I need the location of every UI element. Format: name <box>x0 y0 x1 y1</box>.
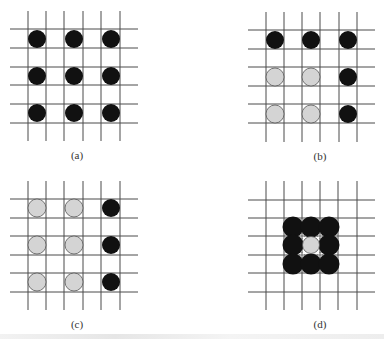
empty-site-dot <box>302 68 320 86</box>
occupied-site-dot <box>28 30 46 48</box>
occupied-site-dot <box>283 254 304 275</box>
occupied-site-dot <box>102 199 120 217</box>
empty-site-dot <box>65 199 83 217</box>
occupied-site-dot <box>65 104 83 122</box>
occupied-site-dot <box>301 254 322 275</box>
occupied-site-dot <box>319 254 340 275</box>
occupied-site-dot <box>102 236 120 254</box>
occupied-site-dot <box>283 235 304 256</box>
empty-site-dot <box>302 105 320 123</box>
empty-site-dot <box>28 236 46 254</box>
panel-b <box>248 12 375 142</box>
occupied-site-dot <box>302 31 320 49</box>
empty-site-dot <box>303 237 320 254</box>
empty-site-dot <box>28 199 46 217</box>
lattice-figure: (a) (b) (c) (d) <box>0 0 384 339</box>
occupied-site-dot <box>102 273 120 291</box>
cropped-caption-strip <box>0 334 384 339</box>
panel-c-label: (c) <box>71 318 84 331</box>
occupied-site-dot <box>339 105 357 123</box>
panel-d-label: (d) <box>314 318 327 331</box>
occupied-site-dot <box>28 104 46 122</box>
occupied-site-dot <box>102 67 120 85</box>
panel-d <box>248 181 375 310</box>
occupied-site-dot <box>102 30 120 48</box>
occupied-site-dot <box>28 67 46 85</box>
occupied-site-dot <box>65 30 83 48</box>
occupied-site-dot <box>283 217 304 238</box>
empty-site-dot <box>266 105 284 123</box>
occupied-site-dot <box>319 217 340 238</box>
occupied-site-dot <box>339 31 357 49</box>
occupied-site-dot <box>102 104 120 122</box>
occupied-site-dot <box>339 68 357 86</box>
occupied-site-dot <box>319 235 340 256</box>
empty-site-dot <box>65 236 83 254</box>
occupied-site-dot <box>65 67 83 85</box>
empty-site-dot <box>65 273 83 291</box>
panel-c <box>10 181 138 310</box>
occupied-site-dot <box>266 31 284 49</box>
empty-site-dot <box>28 273 46 291</box>
panel-a-label: (a) <box>71 149 84 162</box>
panel-a <box>10 11 138 141</box>
panel-b-label: (b) <box>314 150 327 163</box>
empty-site-dot <box>266 68 284 86</box>
occupied-site-dot <box>301 217 322 238</box>
